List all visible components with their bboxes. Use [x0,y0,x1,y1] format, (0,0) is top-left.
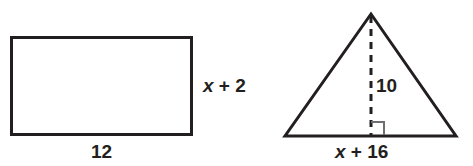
rectangle-height-variable: x [203,75,214,96]
rectangle-height-number: 2 [235,75,246,96]
rectangle-height-operator: + [214,75,236,96]
triangle-height-label: 10 [376,76,397,95]
rectangle-shape [12,38,192,135]
triangle-base-variable: x [335,141,346,162]
rectangle-height-label: x + 2 [203,76,246,95]
triangle-base-number: 16 [367,141,388,162]
triangle-base-operator: + [346,141,368,162]
triangle-base-label: x + 16 [335,142,388,161]
rectangle-base-label: 12 [91,142,112,161]
geometry-figure: x + 2 12 10 x + 16 [0,0,473,166]
